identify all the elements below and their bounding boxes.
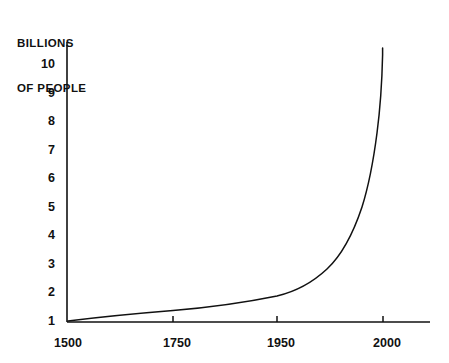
population-curve-line [68, 48, 383, 321]
population-chart: BILLIONS OF PEOPLE 10 9 8 7 6 5 4 3 2 1 … [0, 0, 449, 363]
plot-area [0, 0, 449, 363]
